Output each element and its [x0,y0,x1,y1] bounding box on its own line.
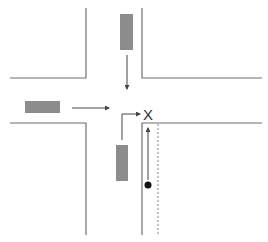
car-south [116,145,128,181]
road-edges [10,8,262,235]
collision-point-label: X [143,106,153,123]
intersection-diagram: X [0,0,268,242]
road-corner-top-right [142,8,262,78]
arrow-car-south-turn-right [122,114,140,140]
car-west [25,101,60,113]
pedestrian-dot [145,182,152,189]
road-corner-bottom-right [142,123,262,235]
road-corner-bottom-left [10,123,86,235]
car-north [120,14,133,50]
road-corner-top-left [10,8,86,78]
